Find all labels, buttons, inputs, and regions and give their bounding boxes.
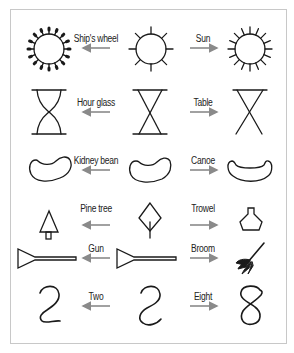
crossed-x-icon	[133, 90, 167, 134]
arrows	[83, 48, 217, 306]
label-table: Table	[173, 97, 233, 108]
canoe-icon	[228, 161, 272, 181]
pine-tree-icon	[40, 211, 58, 239]
bean-outline-icon	[130, 158, 171, 182]
numeral-two-icon	[40, 286, 60, 322]
label-canoe: Canoe	[173, 155, 233, 166]
figure-drawing	[0, 0, 294, 353]
hourglass-icon	[32, 90, 66, 134]
kidney-bean-icon	[30, 157, 71, 181]
label-two: Two	[66, 291, 126, 302]
s-curve-icon	[140, 286, 161, 324]
label-eight: Eight	[173, 291, 233, 302]
sun-icon	[228, 27, 272, 71]
half-sun-icon	[129, 27, 173, 71]
label-trowel: Trowel	[173, 203, 233, 214]
broom-icon	[236, 243, 264, 274]
label-gun: Gun	[66, 243, 126, 254]
label-kidney-bean: Kidney bean	[66, 155, 126, 166]
label-broom: Broom	[173, 243, 233, 254]
label-ships-wheel: Ship's wheel	[66, 33, 126, 44]
label-hour-glass: Hour glass	[66, 97, 126, 108]
diamond-with-stem-icon	[139, 203, 161, 238]
ships-wheel-icon	[28, 28, 70, 70]
numeral-eight-icon	[241, 286, 262, 324]
triangle-with-bar-icon	[117, 249, 176, 268]
trowel-icon	[240, 208, 262, 230]
label-pine-tree: Pine tree	[66, 203, 126, 214]
table-icon	[233, 90, 267, 134]
label-sun: Sun	[173, 33, 233, 44]
